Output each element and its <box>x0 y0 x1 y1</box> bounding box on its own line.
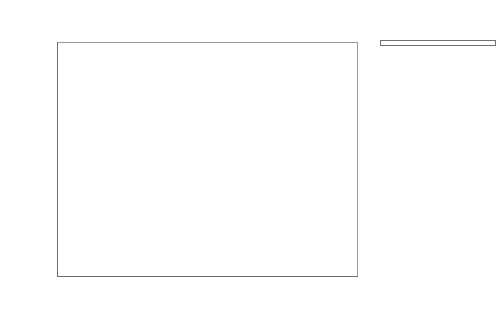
y-axis-tick-labels <box>5 42 53 277</box>
plot-area <box>57 42 358 277</box>
statistics-box <box>380 40 496 46</box>
data-layer <box>58 43 357 276</box>
probability-plot-figure <box>0 0 503 323</box>
